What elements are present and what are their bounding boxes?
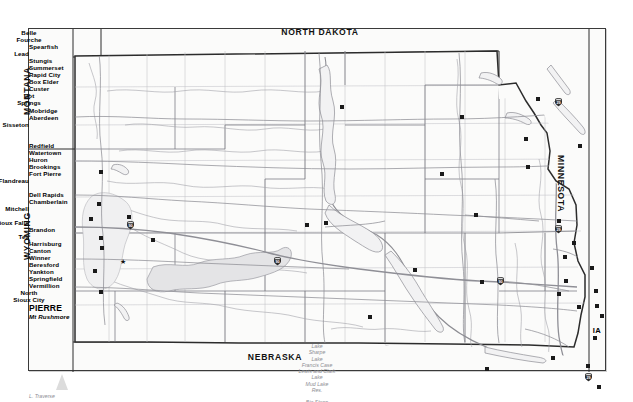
city-marker[interactable] <box>97 202 100 205</box>
capital-marker[interactable] <box>324 221 328 225</box>
city-marker[interactable] <box>413 268 416 271</box>
interstate-shield-icon: 29 <box>554 224 563 234</box>
interstate-shield-icon: 29 <box>584 372 593 382</box>
interstate-shield-icon: 90 <box>126 220 135 230</box>
city-label: Belle Fourche <box>0 29 317 43</box>
city-marker[interactable] <box>564 279 567 282</box>
city-marker[interactable] <box>594 289 597 292</box>
interstate-shield-icon: 90 <box>273 256 282 266</box>
state-label-north-dakota: NORTH DAKOTA <box>281 27 358 37</box>
interstate-shield-icon: 90 <box>496 276 505 286</box>
city-label: Lead <box>0 50 29 57</box>
svg-text:90: 90 <box>128 224 132 228</box>
city-marker[interactable] <box>557 219 560 222</box>
city-marker[interactable] <box>593 336 596 339</box>
city-label: Webster <box>0 128 317 135</box>
city-marker[interactable] <box>93 269 96 272</box>
city-marker[interactable] <box>597 385 600 388</box>
state-label-nebraska: NEBRASKA <box>248 352 302 362</box>
city-marker[interactable] <box>600 314 603 317</box>
city-label: Milbank <box>0 135 317 142</box>
city-marker[interactable] <box>572 241 575 244</box>
map-geometry <box>29 29 607 372</box>
interstate-shield-icon: 29 <box>554 97 563 107</box>
city-marker[interactable] <box>480 280 483 283</box>
city-marker[interactable] <box>586 364 589 367</box>
city-marker[interactable] <box>305 223 308 226</box>
city-marker[interactable] <box>460 115 463 118</box>
city-marker[interactable] <box>99 236 102 239</box>
city-marker[interactable] <box>577 305 580 308</box>
city-marker[interactable] <box>578 144 581 147</box>
city-label: Hot Springs <box>0 92 317 106</box>
city-marker[interactable] <box>151 238 154 241</box>
water-label: Mud Lake Res. <box>29 381 605 393</box>
city-marker[interactable] <box>536 97 539 100</box>
city-marker[interactable] <box>474 213 477 216</box>
cursor-pointer-triangle <box>56 374 68 390</box>
city-label: Sisseton <box>0 121 29 128</box>
city-marker[interactable] <box>440 172 443 175</box>
city-marker[interactable] <box>595 304 598 307</box>
map-screenshot: Belle FourcheSpearfishLeadStungisSummers… <box>0 0 633 402</box>
city-marker[interactable] <box>590 266 593 269</box>
svg-text:29: 29 <box>586 376 590 380</box>
city-marker[interactable] <box>557 292 560 295</box>
state-label-montana: MONTANA <box>22 67 32 115</box>
svg-text:29: 29 <box>556 101 560 105</box>
city-marker[interactable] <box>524 137 527 140</box>
city-marker[interactable] <box>526 165 529 168</box>
mt-rushmore-star-icon: ★ <box>120 258 126 265</box>
svg-text:90: 90 <box>275 260 279 264</box>
state-label-ia: IA <box>593 326 602 335</box>
city-marker[interactable] <box>563 255 566 258</box>
city-marker[interactable] <box>100 246 103 249</box>
state-label-wyoming: WYOMING <box>22 212 32 260</box>
city-label: Hartford <box>0 212 317 219</box>
city-marker[interactable] <box>340 105 343 108</box>
city-marker[interactable] <box>551 356 554 359</box>
city-label: Mitchell <box>0 205 29 212</box>
city-label: Flandreau <box>0 177 29 184</box>
city-label: North Sioux City <box>0 289 317 303</box>
svg-text:90: 90 <box>498 280 502 284</box>
state-label-minnesota: MINNESOTA <box>556 155 566 212</box>
city-marker[interactable] <box>368 315 371 318</box>
city-label: Madison <box>0 184 317 191</box>
svg-text:29: 29 <box>556 228 560 232</box>
city-marker[interactable] <box>485 367 488 370</box>
city-marker[interactable] <box>99 170 102 173</box>
map-frame: Belle FourcheSpearfishLeadStungisSummers… <box>28 28 606 371</box>
